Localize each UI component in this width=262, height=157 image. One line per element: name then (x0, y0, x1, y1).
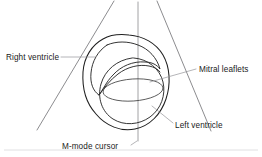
leader-line-m-mode-cursor (131, 141, 137, 145)
label-mitral-leaflets: Mitral leaflets (199, 65, 248, 74)
sector-edge-left-line (37, 1, 114, 130)
label-left-ventricle: Left ventricle (175, 121, 223, 130)
annotation-labels: Right ventricle Mitral leaflets Left ven… (6, 53, 248, 151)
label-right-ventricle: Right ventricle (6, 53, 59, 62)
leader-line-mitral-leaflets (150, 69, 196, 82)
diagram-canvas: Right ventricle Mitral leaflets Left ven… (0, 0, 262, 157)
right-ventricle-cavity-outline (91, 42, 160, 95)
heart-cross-section (83, 35, 169, 130)
epicardium-outline (83, 35, 169, 130)
echocardiogram-diagram: Right ventricle Mitral leaflets Left ven… (0, 0, 262, 157)
leader-line-left-ventricle (152, 106, 173, 123)
